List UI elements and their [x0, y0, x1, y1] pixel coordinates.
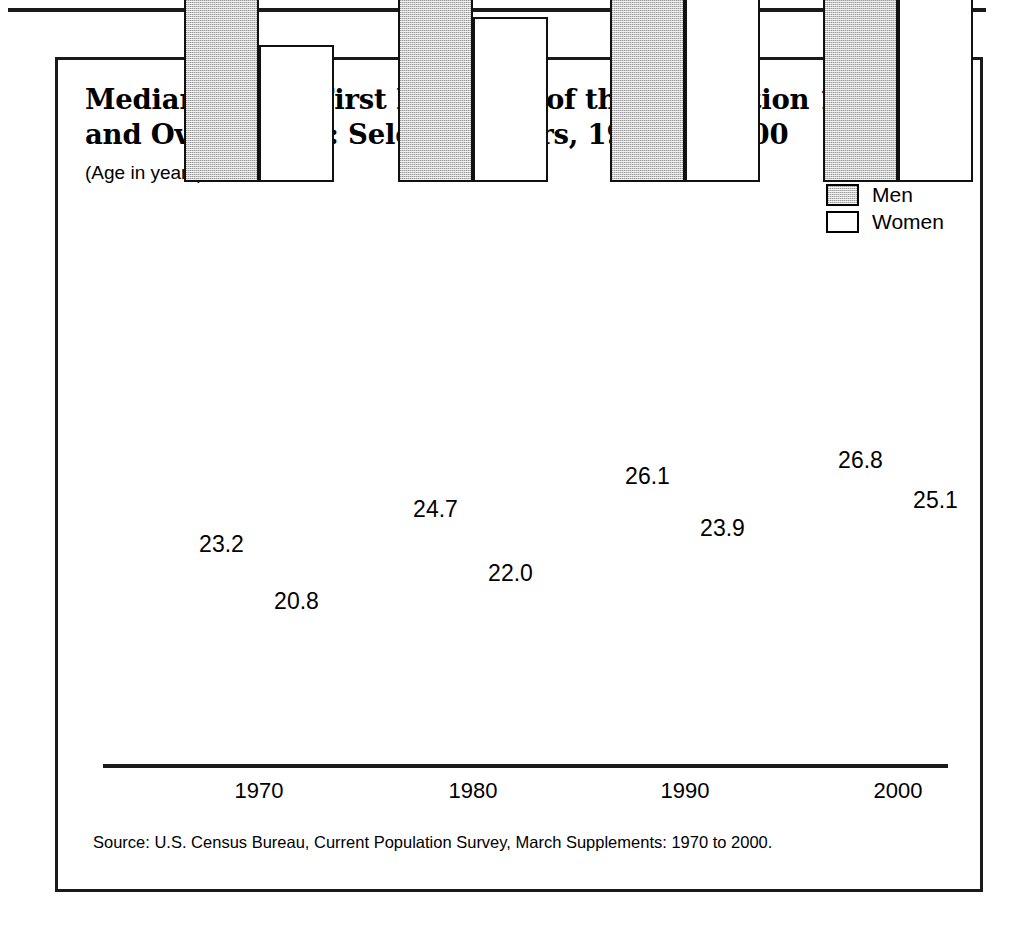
- source-note: Source: U.S. Census Bureau, Current Popu…: [93, 833, 772, 852]
- bar-value-men-1990: 26.1: [594, 463, 701, 490]
- chart-frame: Median Age at First Marriage of the Popu…: [55, 57, 983, 892]
- bar-men-2000: [823, 0, 898, 182]
- x-axis-line: [103, 764, 948, 768]
- bar-value-women-1990: 23.9: [669, 515, 776, 542]
- bar-value-men-2000: 26.8: [807, 447, 914, 474]
- bar-value-men-1980: 24.7: [382, 496, 489, 523]
- bar-men-1980: [398, 0, 473, 182]
- bar-value-women-2000: 25.1: [882, 487, 989, 514]
- bar-women-1990: [685, 0, 760, 182]
- bar-value-men-1970: 23.2: [168, 531, 275, 558]
- x-tick-1970: 1970: [154, 778, 364, 804]
- bar-men-1970: [184, 0, 259, 182]
- bar-women-1980: [473, 17, 548, 182]
- x-tick-1980: 1980: [368, 778, 578, 804]
- bar-value-women-1980: 22.0: [457, 560, 564, 587]
- bar-men-1990: [610, 0, 685, 182]
- bar-value-women-1970: 20.8: [243, 588, 350, 615]
- bar-women-1970: [259, 45, 334, 182]
- plot-area: 23.220.824.722.026.123.926.825.1 1970198…: [58, 60, 980, 889]
- x-tick-1990: 1990: [580, 778, 790, 804]
- x-tick-2000: 2000: [793, 778, 1003, 804]
- bar-women-2000: [898, 0, 973, 182]
